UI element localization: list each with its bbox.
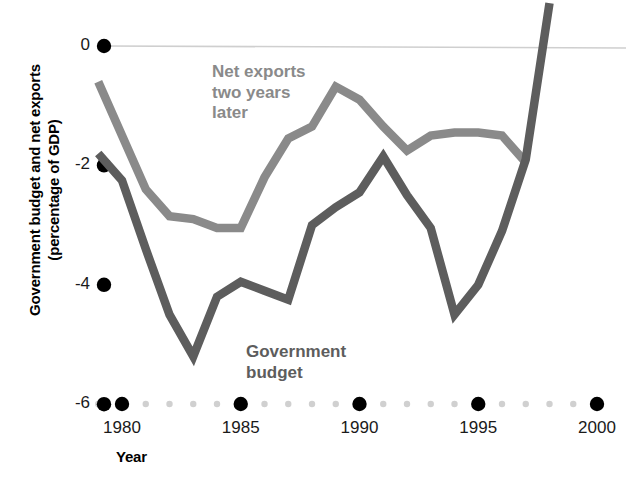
- y-axis-title-line2: (percentage of GDP): [45, 119, 64, 260]
- x-tick-label-1995: 1995: [456, 418, 500, 438]
- chart-series-lines: [98, 3, 549, 356]
- series-line-1: [98, 3, 549, 356]
- x-axis-major-tick-dots: [115, 397, 604, 411]
- y-tick-label-0: 0: [40, 35, 90, 55]
- x-tick-label-1985: 1985: [219, 418, 263, 438]
- y-axis-title: Government budget and net exports (perce…: [23, 0, 67, 385]
- x-tick-label-2000: 2000: [575, 418, 619, 438]
- y-tick-label-neg6: -6: [40, 393, 90, 413]
- chart-plot-area: [0, 0, 628, 478]
- x-axis-minor-tick-dots: [95, 401, 576, 407]
- series-label-net-exports: Net exports two years later: [212, 62, 306, 124]
- zero-reference-line: [104, 46, 626, 48]
- x-axis-title: Year: [116, 448, 147, 465]
- chart-figure: Government budget and net exports (perce…: [0, 0, 628, 478]
- x-tick-label-1980: 1980: [100, 418, 144, 438]
- series-label-government-budget: Government budget: [246, 342, 346, 383]
- x-tick-label-1990: 1990: [338, 418, 382, 438]
- y-tick-label-neg4: -4: [40, 274, 90, 294]
- y-tick-label-neg2: -2: [40, 154, 90, 174]
- series-line-0: [98, 82, 526, 228]
